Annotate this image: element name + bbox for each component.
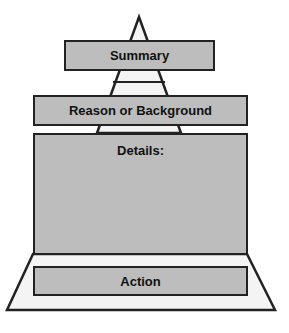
summary-label: Summary <box>110 48 169 63</box>
details-box: Details: <box>33 133 248 255</box>
reason-box: Reason or Background <box>33 95 248 126</box>
reason-label: Reason or Background <box>69 103 212 118</box>
details-label: Details: <box>117 143 164 158</box>
action-label: Action <box>120 274 160 289</box>
action-box: Action <box>33 266 248 296</box>
summary-box: Summary <box>64 40 215 71</box>
